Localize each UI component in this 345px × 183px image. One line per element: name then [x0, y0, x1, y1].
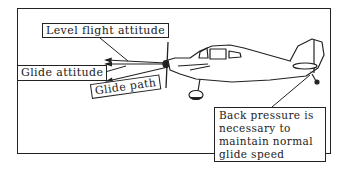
callout-line: maintain normal — [219, 135, 321, 148]
callout-line: Back pressure is — [219, 109, 321, 122]
level-flight-attitude-label: Level flight attitude — [42, 23, 169, 38]
back-pressure-callout: Back pressure is necessary to maintain n… — [214, 107, 326, 162]
back-pressure-leader — [272, 75, 310, 107]
level-flight-arrow — [104, 58, 166, 64]
callout-line: necessary to — [219, 122, 321, 135]
airplane-icon — [163, 39, 324, 100]
level-flight-leader — [100, 38, 128, 61]
glide-attitude-label: Glide attitude — [17, 65, 107, 81]
callout-line: glide speed — [219, 148, 321, 161]
glide-attitude-leader — [105, 66, 126, 72]
